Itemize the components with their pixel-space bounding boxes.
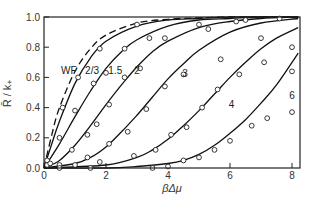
curve-label: WF xyxy=(61,65,77,76)
data-point xyxy=(237,72,242,77)
y-tick-label: 0.6 xyxy=(26,72,40,83)
x-tick-label: 8 xyxy=(289,170,295,181)
data-point xyxy=(94,122,99,127)
data-point xyxy=(85,132,90,137)
data-point xyxy=(97,46,102,51)
data-point xyxy=(125,129,130,134)
data-point xyxy=(265,116,270,121)
curve-label: 4 xyxy=(229,99,235,110)
data-point xyxy=(57,135,62,140)
data-point xyxy=(122,75,127,80)
data-point xyxy=(259,36,264,41)
data-point xyxy=(107,102,112,107)
data-point xyxy=(228,138,233,143)
y-tick-label: 0.4 xyxy=(26,102,40,113)
data-point xyxy=(153,147,158,152)
data-point xyxy=(197,155,202,160)
y-tick-label: 0.0 xyxy=(26,163,40,174)
x-tick-label: 6 xyxy=(227,170,233,181)
data-point xyxy=(70,147,75,152)
data-point xyxy=(91,81,96,86)
data-point xyxy=(85,155,90,160)
data-point xyxy=(169,132,174,137)
data-point xyxy=(262,60,267,65)
data-point xyxy=(243,18,248,23)
curve-4 xyxy=(44,28,298,168)
curve-labels: WF2/31.52346 xyxy=(61,65,295,109)
data-point xyxy=(107,141,112,146)
data-point xyxy=(122,46,127,51)
data-point xyxy=(234,19,239,24)
curve-label: 1.5 xyxy=(108,65,122,76)
data-point xyxy=(212,147,217,152)
data-point xyxy=(163,84,168,89)
data-point xyxy=(184,125,189,130)
data-point xyxy=(181,158,186,163)
data-point xyxy=(290,110,295,115)
data-point xyxy=(60,105,65,110)
data-point xyxy=(132,154,137,159)
curve-3 xyxy=(44,19,298,169)
y-axis-title: R̄ / k₊ xyxy=(1,79,13,108)
data-point xyxy=(147,36,152,41)
data-point xyxy=(290,45,295,50)
data-point xyxy=(144,107,149,112)
y-tick-label: 1.0 xyxy=(26,12,40,23)
y-axis-ticks: 0.00.20.40.60.81.0 xyxy=(26,12,49,174)
curve-label: 2/3 xyxy=(85,65,99,76)
x-axis-title: βΔμ xyxy=(161,182,182,194)
data-point xyxy=(215,87,220,92)
data-point xyxy=(73,108,78,113)
x-tick-label: 2 xyxy=(103,170,109,181)
curve-label: 6 xyxy=(289,90,295,101)
data-point xyxy=(197,22,202,27)
y-tick-label: 0.8 xyxy=(26,42,40,53)
data-point xyxy=(135,22,140,27)
data-point xyxy=(97,160,102,165)
data-point xyxy=(290,69,295,74)
y-tick-label: 0.2 xyxy=(26,132,40,143)
data-point xyxy=(249,123,254,128)
curve-label: 3 xyxy=(182,68,188,79)
data-point xyxy=(163,36,168,41)
x-tick-label: 0 xyxy=(41,170,47,181)
data-points xyxy=(45,16,295,170)
curve-label: 2 xyxy=(134,65,140,76)
chart-svg: 0.00.20.40.60.81.0 02468 WF2/31.52346 βΔ… xyxy=(0,0,311,199)
data-point xyxy=(48,161,53,166)
data-point xyxy=(218,57,223,62)
x-tick-label: 4 xyxy=(165,170,171,181)
data-point xyxy=(206,27,211,32)
data-point xyxy=(200,105,205,110)
data-point xyxy=(73,163,78,168)
